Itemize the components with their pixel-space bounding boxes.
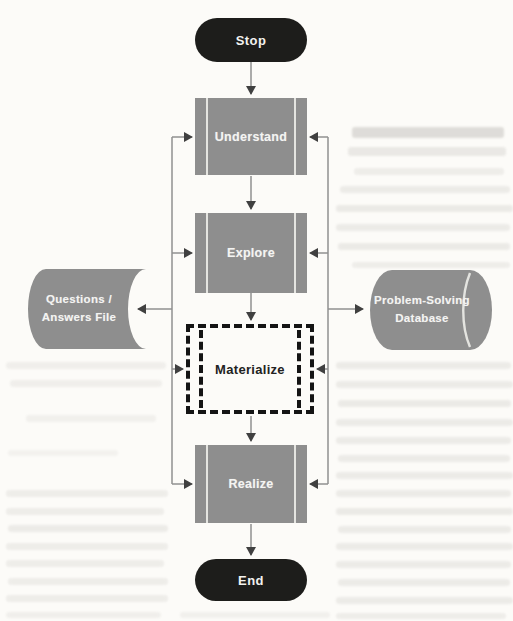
node-database: Problem-Solving Database [366, 268, 496, 352]
node-understand: Understand [195, 98, 307, 175]
node-realize: Realize [195, 445, 307, 523]
materialize-right-bar [297, 330, 301, 408]
database-line2: Database [395, 310, 449, 328]
node-end: End [195, 559, 307, 601]
node-stop-label: Stop [236, 33, 266, 48]
qa-file-line2: Answers File [42, 309, 117, 327]
node-qa-file: Questions / Answers File [22, 266, 150, 352]
node-understand-label: Understand [215, 130, 287, 144]
node-materialize-label: Materialize [215, 362, 285, 377]
node-end-label: End [238, 573, 264, 588]
node-explore-label: Explore [227, 246, 275, 260]
scanned-page: Stop Understand Explore Materialize Real… [0, 0, 513, 621]
node-explore: Explore [195, 213, 307, 293]
materialize-left-bar [199, 330, 203, 408]
node-realize-label: Realize [228, 477, 273, 491]
database-line1: Problem-Solving [374, 292, 470, 310]
node-database-label: Problem-Solving Database [366, 268, 478, 352]
node-materialize: Materialize [186, 324, 314, 414]
node-qa-file-label: Questions / Answers File [22, 266, 136, 352]
qa-file-line1: Questions / [46, 291, 112, 309]
node-stop: Stop [195, 18, 307, 62]
